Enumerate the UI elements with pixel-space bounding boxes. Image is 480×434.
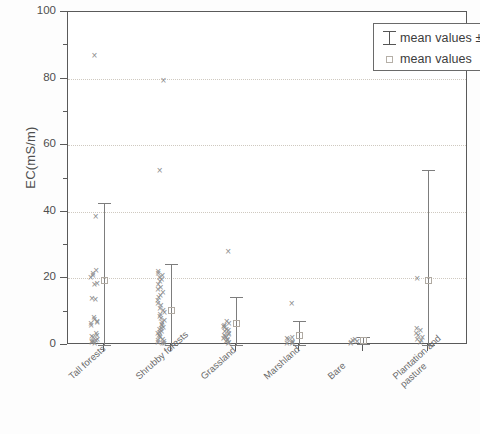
data-point (158, 321, 165, 328)
data-point (156, 313, 163, 320)
data-point (159, 319, 166, 326)
data-point (160, 307, 167, 314)
legend-item-mean: mean values (380, 48, 480, 69)
mean-marker (101, 277, 108, 284)
error-bar-cap-upper (422, 170, 435, 171)
data-point (87, 320, 94, 327)
error-bar-cap-upper (230, 297, 243, 298)
data-point (91, 281, 98, 288)
data-point (417, 327, 424, 334)
data-point (88, 333, 95, 340)
y-axis-tick (60, 344, 67, 345)
data-point (158, 328, 165, 335)
y-axis-tick-label: 0 (12, 337, 56, 349)
error-bar (171, 264, 172, 345)
data-point (88, 339, 95, 346)
y-axis-tick-label: 20 (12, 270, 56, 282)
data-point (93, 332, 100, 339)
data-point (413, 330, 420, 337)
data-point (283, 340, 290, 347)
data-point (94, 318, 101, 325)
data-point (283, 335, 290, 342)
y-axis-tick (60, 11, 67, 12)
chart-legend: mean values ± SD mean values (373, 23, 480, 71)
data-point (160, 324, 167, 331)
y-axis-tick (60, 144, 67, 145)
data-point (349, 337, 356, 344)
data-point (347, 339, 354, 346)
data-point (93, 330, 100, 337)
mean-marker (296, 332, 303, 339)
data-point (223, 326, 230, 333)
data-point (225, 248, 232, 255)
error-bar (104, 203, 105, 345)
gridline (68, 278, 466, 279)
data-point (90, 314, 97, 321)
data-point (223, 334, 230, 341)
data-point (156, 329, 163, 336)
error-bar (428, 170, 429, 345)
data-point (156, 333, 163, 340)
data-point (90, 334, 97, 341)
x-axis-category-label: Grassland (199, 345, 238, 382)
data-point (155, 270, 162, 277)
data-point (158, 322, 165, 329)
data-point (155, 337, 162, 344)
data-point (88, 338, 95, 345)
x-axis-category-label: Tall forests (67, 344, 108, 382)
data-point (157, 334, 164, 341)
data-point (224, 337, 231, 344)
data-point (156, 305, 163, 312)
y-axis-tick (60, 277, 67, 278)
data-point (221, 332, 228, 339)
data-point (154, 300, 161, 307)
data-point (226, 330, 233, 337)
data-point (92, 296, 99, 303)
data-point (221, 328, 228, 335)
error-bar-cap-upper (165, 264, 178, 265)
data-point (158, 325, 165, 332)
data-point (157, 292, 164, 299)
mean-marker (425, 277, 432, 284)
data-point (157, 284, 164, 291)
x-axis-category-label: Bare (326, 361, 348, 382)
mean-marker (360, 337, 367, 344)
data-point (159, 336, 166, 343)
data-point (155, 268, 162, 275)
data-point (91, 316, 98, 323)
data-point (91, 52, 98, 59)
data-point (222, 338, 229, 345)
data-point (88, 322, 95, 329)
gridline (68, 79, 466, 80)
y-axis-tick (60, 211, 67, 212)
data-point (156, 332, 163, 339)
data-point (88, 295, 95, 302)
chart-figure: EC(mS/m) 020406080100 mean values ± SD m… (0, 0, 480, 434)
data-point (222, 333, 229, 340)
data-point (159, 289, 166, 296)
data-point (154, 330, 161, 337)
open-square-icon (380, 50, 400, 68)
error-bar-cap-upper (293, 321, 306, 322)
plot-area: mean values ± SD mean values (67, 11, 467, 344)
y-axis-tick (60, 78, 67, 79)
mean-marker (168, 307, 175, 314)
y-axis-tick-label: 40 (12, 204, 56, 216)
data-point (288, 300, 295, 307)
data-point (347, 340, 354, 347)
data-point (156, 167, 163, 174)
x-axis-tick (362, 344, 363, 351)
data-point (155, 281, 162, 288)
data-point (92, 337, 99, 344)
gridline (68, 212, 466, 213)
data-point (221, 324, 228, 331)
data-point (90, 338, 97, 345)
data-point (155, 339, 162, 346)
error-bar-cap-upper (98, 203, 111, 204)
data-point (220, 323, 227, 330)
y-axis-tick-label: 60 (12, 137, 56, 149)
data-point (224, 336, 231, 343)
data-point (414, 336, 421, 343)
legend-item-mean-sd: mean values ± SD (380, 27, 480, 48)
x-axis-category-label: Marshland (262, 344, 302, 381)
